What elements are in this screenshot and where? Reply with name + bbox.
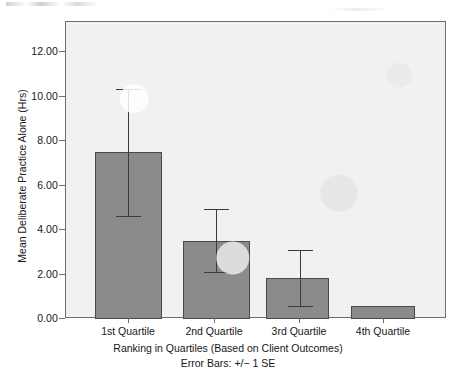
error-bar-cap-upper-2nd-quartile (204, 209, 229, 210)
x-tick-mark-2nd-quartile (214, 318, 215, 323)
x-tick-label-3rd-quartile: 3rd Quartile (272, 325, 327, 337)
error-bar-stem-1st-quartile (128, 89, 129, 217)
y-tick-label-2: 2.00 (37, 268, 58, 280)
error-bar-stem-3rd-quartile (300, 250, 301, 307)
y-axis-tick-labels: 12.00 10.00 8.00 6.00 4.00 2.00 0.00 (0, 0, 58, 372)
x-tick-mark-1st-quartile (128, 318, 129, 323)
y-tick-mark-0 (59, 318, 65, 319)
x-tick-mark-4th-quartile (383, 318, 384, 323)
x-tick-label-4th-quartile: 4th Quartile (356, 325, 410, 337)
bar-3rd-quartile (266, 278, 329, 319)
y-tick-label-10: 10.00 (31, 90, 58, 102)
y-tick-label-6: 6.00 (37, 179, 58, 191)
error-bar-footnote: Error Bars: +/− 1 SE (0, 357, 456, 369)
error-bar-cap-upper-1st-quartile (116, 89, 141, 90)
scan-artifact-top-right (330, 8, 390, 11)
x-axis-title: Ranking in Quartiles (Based on Client Ou… (0, 342, 456, 354)
error-bar-stem-2nd-quartile (216, 209, 217, 273)
y-tick-label-8: 8.00 (37, 134, 58, 146)
error-bar-cap-upper-3rd-quartile (288, 250, 313, 251)
x-tick-label-1st-quartile: 1st Quartile (101, 325, 155, 337)
x-tick-label-2nd-quartile: 2nd Quartile (185, 325, 242, 337)
y-tick-label-4: 4.00 (37, 223, 58, 235)
y-axis-title: Mean Deliberate Practice Alone (Hrs) (16, 46, 28, 306)
x-tick-mark-3rd-quartile (299, 318, 300, 323)
error-bar-cap-lower-3rd-quartile (288, 306, 313, 307)
error-bar-cap-lower-1st-quartile (116, 216, 141, 217)
error-bar-cap-lower-2nd-quartile (204, 272, 229, 273)
plot-area (65, 21, 446, 318)
y-tick-label-0: 0.00 (37, 312, 58, 324)
y-tick-label-12: 12.00 (31, 45, 58, 57)
